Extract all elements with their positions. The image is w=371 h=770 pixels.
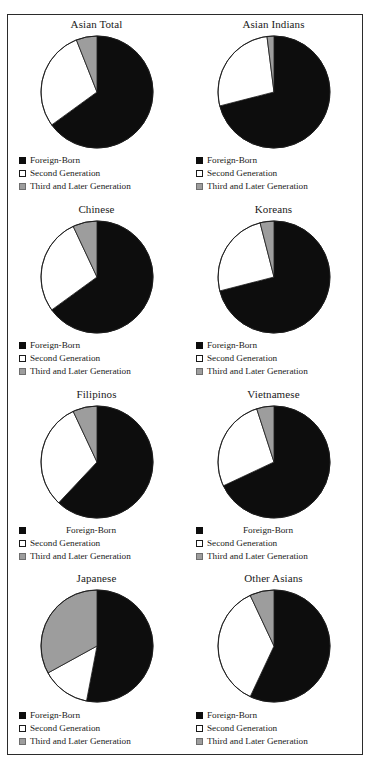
legend-label: Foreign-Born <box>207 155 257 166</box>
pie-other-asians <box>185 587 362 707</box>
legend-item-foreign-born: Foreign-Born <box>196 524 356 536</box>
swatch-black-icon <box>19 157 26 164</box>
panel-title: Asian Total <box>8 18 185 30</box>
legend-item-foreign-born: Foreign-Born <box>196 155 356 167</box>
legend: Foreign-Born Second Generation Third and… <box>19 155 179 194</box>
legend-item-foreign-born: Foreign-Born <box>19 155 179 167</box>
pie-asian-total <box>8 33 185 153</box>
legend-item-second-generation: Second Generation <box>196 722 356 734</box>
legend-label: Third and Later Generation <box>207 736 308 747</box>
legend: Foreign-Born Second Generation Third and… <box>196 340 356 379</box>
pie-svg <box>215 33 333 151</box>
panel-asian-total: Asian Total Foreign-Born Second Generati… <box>8 15 185 200</box>
pie-vietnamese <box>185 403 362 523</box>
pie-chinese <box>8 218 185 338</box>
figure-frame: Asian Total Foreign-Born Second Generati… <box>7 14 363 755</box>
legend-item-third-and-later: Third and Later Generation <box>196 735 356 747</box>
legend-item-foreign-born: Foreign-Born <box>196 340 356 352</box>
pie-chart-figure: Asian Total Foreign-Born Second Generati… <box>0 0 371 770</box>
panel-title: Chinese <box>8 203 185 215</box>
swatch-white-icon <box>19 540 26 547</box>
legend: Foreign-Born Second Generation Third and… <box>19 340 179 379</box>
legend-item-third-and-later: Third and Later Generation <box>19 735 179 747</box>
swatch-gray-icon <box>196 183 203 190</box>
panel-filipinos: Filipinos Foreign-Born Second Generation… <box>8 385 185 570</box>
legend-item-foreign-born: Foreign-Born <box>19 524 179 536</box>
legend-item-third-and-later: Third and Later Generation <box>19 550 179 562</box>
legend-label: Third and Later Generation <box>30 736 131 747</box>
legend-label: Foreign-Born <box>30 710 80 721</box>
swatch-black-icon <box>196 712 203 719</box>
legend-label: Foreign-Born <box>207 340 257 351</box>
legend-item-foreign-born: Foreign-Born <box>19 340 179 352</box>
legend-item-second-generation: Second Generation <box>19 722 179 734</box>
panel-grid: Asian Total Foreign-Born Second Generati… <box>8 15 362 754</box>
legend-item-third-and-later: Third and Later Generation <box>19 366 179 378</box>
panel-koreans: Koreans Foreign-Born Second Generation T… <box>185 200 362 385</box>
panel-title: Other Asians <box>185 572 362 584</box>
legend-label: Third and Later Generation <box>207 551 308 562</box>
swatch-white-icon <box>196 170 203 177</box>
legend-label: Second Generation <box>30 723 100 734</box>
panel-title: Asian Indians <box>185 18 362 30</box>
legend-label: Third and Later Generation <box>30 551 131 562</box>
legend-label: Third and Later Generation <box>30 181 131 192</box>
pie-asian-indians <box>185 33 362 153</box>
pie-filipinos <box>8 403 185 523</box>
swatch-black-icon <box>196 157 203 164</box>
swatch-black-icon <box>196 527 203 534</box>
legend-item-second-generation: Second Generation <box>19 353 179 365</box>
swatch-gray-icon <box>19 553 26 560</box>
legend: Foreign-Born Second Generation Third and… <box>19 709 179 748</box>
panel-title: Vietnamese <box>185 388 362 400</box>
legend: Foreign-Born Second Generation Third and… <box>196 155 356 194</box>
legend-item-third-and-later: Third and Later Generation <box>196 366 356 378</box>
swatch-black-icon <box>19 342 26 349</box>
legend-label: Second Generation <box>30 538 100 549</box>
pie-svg <box>215 587 333 705</box>
pie-svg <box>38 403 156 521</box>
swatch-white-icon <box>19 355 26 362</box>
legend-item-third-and-later: Third and Later Generation <box>19 181 179 193</box>
swatch-black-icon <box>196 342 203 349</box>
swatch-white-icon <box>19 170 26 177</box>
legend-label: Second Generation <box>30 168 100 179</box>
legend-item-foreign-born: Foreign-Born <box>19 709 179 721</box>
swatch-gray-icon <box>19 183 26 190</box>
pie-svg <box>38 33 156 151</box>
legend-label: Second Generation <box>207 723 277 734</box>
legend-item-third-and-later: Third and Later Generation <box>196 550 356 562</box>
pie-koreans <box>185 218 362 338</box>
legend-label: Foreign-Born <box>243 525 293 536</box>
legend-label: Foreign-Born <box>30 340 80 351</box>
legend-item-second-generation: Second Generation <box>19 537 179 549</box>
swatch-black-icon <box>19 712 26 719</box>
swatch-white-icon <box>196 725 203 732</box>
legend-label: Foreign-Born <box>66 525 116 536</box>
legend-label: Second Generation <box>207 538 277 549</box>
legend-item-second-generation: Second Generation <box>196 168 356 180</box>
legend-item-foreign-born: Foreign-Born <box>196 709 356 721</box>
legend-item-third-and-later: Third and Later Generation <box>196 181 356 193</box>
pie-japanese <box>8 587 185 707</box>
legend-label: Third and Later Generation <box>207 366 308 377</box>
legend: Foreign-Born Second Generation Third and… <box>19 524 179 563</box>
panel-title: Japanese <box>8 572 185 584</box>
swatch-gray-icon <box>196 553 203 560</box>
legend-label: Third and Later Generation <box>30 366 131 377</box>
swatch-white-icon <box>196 355 203 362</box>
panel-title: Filipinos <box>8 388 185 400</box>
swatch-gray-icon <box>19 368 26 375</box>
legend-item-second-generation: Second Generation <box>196 537 356 549</box>
legend-label: Foreign-Born <box>30 155 80 166</box>
swatch-gray-icon <box>19 738 26 745</box>
panel-japanese: Japanese Foreign-Born Second Generation … <box>8 569 185 754</box>
pie-svg <box>38 587 156 705</box>
swatch-white-icon <box>19 725 26 732</box>
swatch-white-icon <box>196 540 203 547</box>
panel-other-asians: Other Asians Foreign-Born Second Generat… <box>185 569 362 754</box>
panel-title: Koreans <box>185 203 362 215</box>
pie-svg <box>38 218 156 336</box>
legend-label: Second Generation <box>207 168 277 179</box>
legend: Foreign-Born Second Generation Third and… <box>196 524 356 563</box>
